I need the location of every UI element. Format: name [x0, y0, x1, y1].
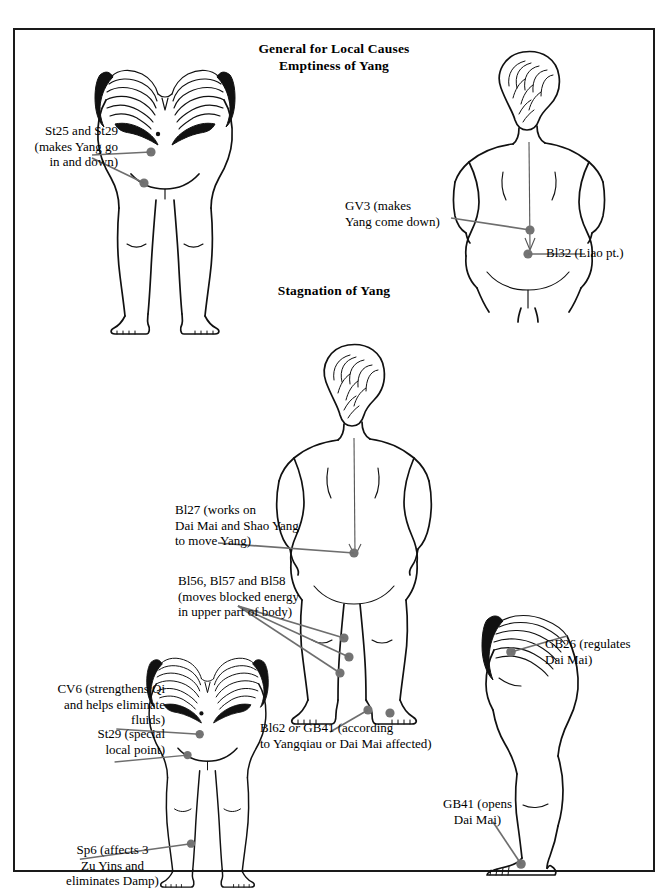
figure-back-torso-emptiness	[433, 42, 623, 322]
label-gb41-side: GB41 (opens Dai Mai)	[420, 796, 535, 827]
label-gv3: GV3 (makes Yang come down)	[345, 198, 465, 229]
label-cv6: CV6 (strengthens Qi and helps eliminate …	[25, 681, 165, 728]
navel-mark	[156, 132, 160, 136]
label-st25-st29: St25 and St29 (makes Yang go in and down…	[10, 123, 118, 170]
label-bl27: Bl27 (works on Dai Mai and Shao Yang to …	[175, 502, 350, 549]
label-gb26: GB26 (regulates Dai Mai)	[545, 636, 668, 667]
diagram-frame: General for Local Causes Emptiness of Ya…	[13, 28, 655, 872]
label-sp6: Sp6 (affects 3 Zu Yins and eliminates Da…	[45, 842, 180, 889]
leader-gb41-side	[493, 822, 521, 864]
label-or-italic: or	[289, 720, 301, 735]
label-st29-local: St29 (special local point)	[45, 726, 165, 757]
point-gb41	[385, 708, 394, 717]
figure-front-torso-emptiness	[70, 48, 260, 333]
label-bl32: Bl32 (Liao pt.)	[546, 245, 668, 261]
spine-line	[354, 438, 355, 554]
navel-mark	[199, 711, 203, 715]
label-bl56-bl57-bl58: Bl56, Bl57 and Bl58 (moves blocked energ…	[178, 573, 363, 620]
